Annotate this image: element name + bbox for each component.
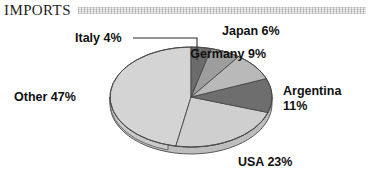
slice-label-argentina-value: 11% [283, 99, 307, 113]
slice-label-italy: Italy 4% [75, 31, 122, 45]
slice-label-germany: Germany 9% [190, 47, 266, 61]
slice-label-argentina: Argentina 11% [283, 84, 361, 114]
pie-slices [110, 47, 272, 147]
slice-label-japan: Japan 6% [222, 24, 280, 38]
slice-label-usa: USA 23% [238, 155, 292, 169]
imports-pie-chart-figure: IMPORTS [0, 0, 368, 181]
slice-label-argentina-name: Argentina [283, 84, 341, 98]
slice-label-other: Other 47% [14, 90, 76, 104]
